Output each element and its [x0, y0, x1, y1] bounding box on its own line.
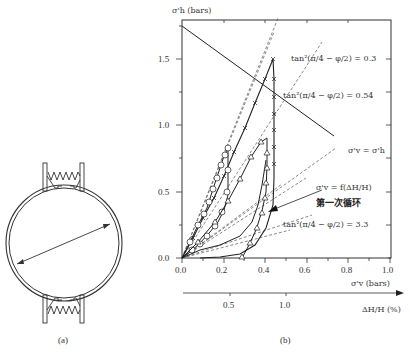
x-tick-0: 0.0 — [175, 265, 187, 275]
series-circle — [182, 145, 231, 258]
secondary-axis-label: ΔH/H (%) — [362, 305, 401, 314]
secondary-tick-1: 1.0 — [279, 300, 291, 310]
annotation-first-cycle: 第一次循环 — [316, 197, 361, 208]
annotation-tan-3-3: tan²(π/4 − φ/2) = 3.3 — [283, 220, 368, 229]
y-tick-0: 0.0 — [158, 253, 170, 263]
x-tick-2: 0.4 — [258, 265, 270, 275]
annotation-tan-0-54: tan²(π/4 − φ/2) = 0.54 — [283, 91, 373, 100]
ring-apparatus-diagram: (a) — [6, 163, 122, 345]
y-tick-1: 0.5 — [158, 187, 170, 197]
x-axis-label: σ'v (bars) — [351, 279, 390, 288]
annotation-tan-0-3: tan²(π/4 − φ/2) = 0.3 — [291, 54, 376, 63]
y-tick-2: 1.0 — [158, 120, 170, 130]
equality-line — [182, 26, 334, 136]
caption-b: (b) — [280, 335, 291, 345]
annotation-function: σ'v = f(ΔH/H) — [316, 183, 372, 192]
annotation-equality: σ'v = σ'h — [348, 146, 385, 155]
y-axis-label: σ'h (bars) — [172, 6, 211, 15]
x-tick-4: 0.8 — [341, 265, 353, 275]
x-tick-3: 0.6 — [299, 265, 311, 275]
secondary-tick-0: 0.5 — [223, 300, 235, 310]
x-tick-1: 0.2 — [216, 265, 227, 275]
figure: (a) 0.0 0.5 1.0 1.5 — [0, 0, 410, 352]
first-cycle-arrow — [272, 190, 322, 210]
caption-a: (a) — [58, 335, 68, 345]
x-tick-5: 1.0 — [382, 265, 394, 275]
y-tick-3: 1.5 — [158, 54, 170, 64]
chart-b: 0.0 0.5 1.0 1.5 0.0 0.2 0.4 0.6 0.8 — [158, 6, 404, 345]
secondary-axis: 0.5 1.0 ΔH/H (%) — [183, 290, 404, 314]
